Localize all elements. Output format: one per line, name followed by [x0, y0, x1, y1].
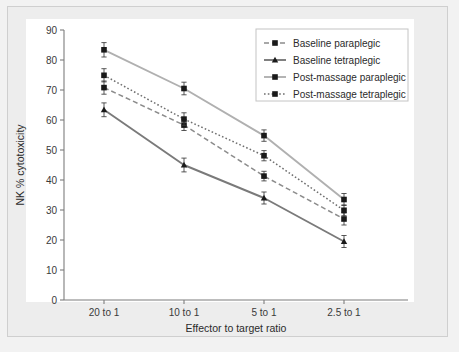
x-tick-label: 20 to 1: [89, 307, 120, 318]
y-axis-title: NK % cytotoxicity: [14, 124, 26, 206]
y-tick-label: 10: [46, 265, 58, 276]
x-axis-ticks: 20 to 110 to 15 to 12.5 to 1: [89, 300, 361, 318]
legend-label: Baseline paraplegic: [293, 38, 380, 49]
chart-legend[interactable]: Baseline paraplegicBaseline tetraplegicP…: [256, 29, 408, 101]
y-tick-label: 40: [46, 175, 58, 186]
y-tick-label: 80: [46, 55, 58, 66]
data-point-marker: [272, 74, 278, 80]
legend-label: Post-massage tetraplegic: [293, 89, 406, 100]
figure-root: 0102030405060708090 20 to 110 to 15 to 1…: [0, 0, 459, 352]
legend-label: Baseline tetraplegic: [293, 55, 380, 66]
data-point-marker: [341, 197, 347, 203]
data-point-marker: [261, 133, 267, 139]
x-tick-label: 10 to 1: [169, 307, 200, 318]
y-tick-label: 30: [46, 205, 58, 216]
y-tick-label: 60: [46, 115, 58, 126]
data-point-marker: [261, 173, 267, 179]
figure-frame: 0102030405060708090 20 to 110 to 15 to 1…: [7, 6, 448, 337]
data-point-marker: [181, 116, 187, 122]
data-point-marker: [181, 86, 187, 92]
line-chart: 0102030405060708090 20 to 110 to 15 to 1…: [8, 7, 449, 338]
data-point-marker: [101, 85, 107, 91]
x-tick-label: 5 to 1: [251, 307, 276, 318]
data-point-marker: [261, 153, 267, 159]
y-tick-label: 20: [46, 235, 58, 246]
x-axis-title: Effector to target ratio: [186, 322, 287, 334]
x-tick-label: 2.5 to 1: [327, 307, 361, 318]
data-point-marker: [272, 91, 278, 97]
y-tick-label: 70: [46, 85, 58, 96]
data-point-marker: [341, 216, 347, 222]
data-point-marker: [101, 73, 107, 79]
data-point-marker: [272, 40, 278, 46]
data-point-marker: [101, 47, 107, 53]
legend-label: Post-massage paraplegic: [293, 72, 406, 83]
data-point-marker: [341, 208, 347, 214]
y-tick-label: 50: [46, 145, 58, 156]
y-tick-label: 90: [46, 25, 58, 36]
y-tick-label: 0: [51, 295, 57, 306]
